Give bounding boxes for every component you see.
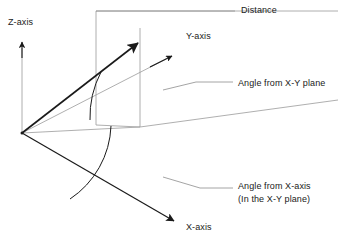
origin-point	[21, 132, 24, 135]
distance-vector	[22, 43, 138, 133]
plane-bottom-edge-far	[140, 100, 338, 127]
diagram-canvas: Z-axis Y-axis X-axis Distance Angle from…	[0, 0, 338, 245]
x-axis-label: X-axis	[186, 222, 212, 233]
y-axis-label: Y-axis	[186, 31, 211, 42]
distance-vector-arrow	[22, 43, 138, 133]
distance-label: Distance	[241, 5, 277, 16]
angle-from-xy-plane-label: Angle from X-Y plane	[238, 78, 325, 89]
plane-base-left	[96, 125, 140, 127]
x-axis-arrow	[22, 133, 174, 221]
plane-bottom-edge	[22, 127, 140, 133]
z-axis-label: Z-axis	[8, 17, 33, 28]
y-axis-shaft	[22, 59, 166, 133]
angle-from-x-axis-label: Angle from X-axis	[238, 181, 311, 192]
y-axis-arrow	[150, 56, 172, 67]
projection-plane	[22, 11, 338, 133]
leader-lines	[96, 11, 235, 188]
angle-from-x-axis-note: (In the X-Y plane)	[238, 194, 310, 205]
leader-line-angle-x-axis	[163, 177, 233, 188]
leader-line-angle-xy-plane	[163, 82, 233, 90]
x-axis	[22, 133, 174, 221]
azimuth-angle-arc	[70, 126, 111, 199]
diagram-vector-graphic	[0, 0, 338, 245]
y-axis	[22, 56, 172, 133]
